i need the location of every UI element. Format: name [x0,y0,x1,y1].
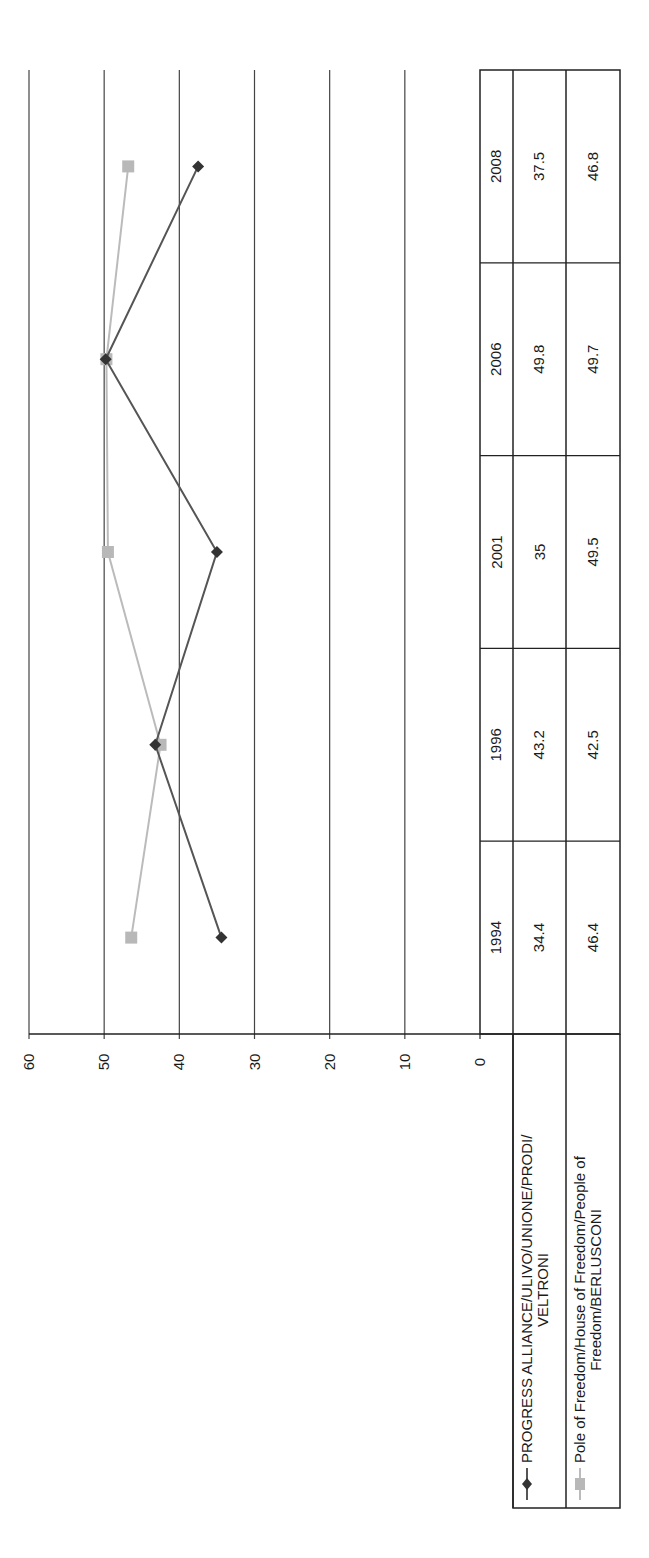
table-cell-value: 49.5 [584,537,601,566]
series-line-0 [106,166,222,937]
diamond-marker-icon [192,160,204,172]
table-cell-value: 34.4 [531,923,548,952]
tick-label: 50 [95,1054,112,1071]
table-category-label: 2006 [488,343,505,376]
series-line-1 [106,166,160,937]
legend-label: Freedom/BERLUSCONI [587,1209,604,1371]
square-marker-icon [575,1478,585,1490]
chart-canvas: 0102030405060 1994199620012006200834.443… [0,0,649,1558]
series-lines [100,160,228,943]
legend-label: Pole of Freedom/House of Freedom/People … [571,1155,588,1463]
square-marker-icon [102,546,114,558]
square-marker-icon [125,932,137,944]
table-cell-value: 49.7 [584,345,601,374]
legend-label: PROGRESS ALLIANCE/ULIVO/UNIONE/PRODI/ [518,1134,535,1463]
diamond-marker-icon [215,932,227,944]
table-category-label: 1994 [488,921,505,954]
square-marker-icon [122,160,134,172]
table-cell-value: 37.5 [531,152,548,181]
table-category-label: 1996 [488,728,505,761]
tick-label: 60 [20,1054,37,1071]
table-cell-value: 35 [531,544,548,561]
tick-label: 30 [246,1054,263,1071]
table-cell-value: 43.2 [531,730,548,759]
diamond-marker-icon [211,546,223,558]
tick-label: 10 [396,1054,413,1071]
gridlines [29,70,480,1039]
table-category-label: 2001 [488,535,505,568]
table-cell-value: 42.5 [584,730,601,759]
legend-label: VELTRONI [534,1253,551,1327]
tick-label: 20 [321,1054,338,1071]
tick-label: 40 [170,1054,187,1071]
tick-label: 0 [471,1058,488,1066]
table-cell-value: 49.8 [531,345,548,374]
line-chart: 0102030405060 1994199620012006200834.443… [0,0,649,1558]
table-cell-value: 46.8 [584,152,601,181]
table-category-label: 2008 [488,150,505,183]
value-axis: 0102030405060 [20,1034,620,1070]
table-cell-value: 46.4 [584,923,601,952]
diamond-marker-icon [522,1478,532,1490]
